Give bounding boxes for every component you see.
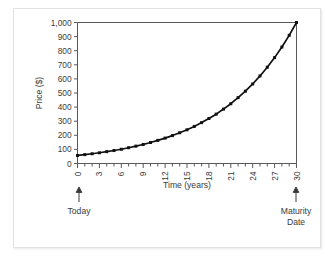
data-marker — [193, 125, 196, 128]
data-marker — [142, 143, 145, 146]
y-tick-label: 1,000 — [51, 18, 72, 28]
x-tick-label: 9 — [138, 171, 148, 176]
data-marker — [105, 150, 108, 153]
y-tick-label: 200 — [58, 130, 72, 140]
up-arrow-icon — [76, 187, 82, 202]
data-marker — [280, 46, 283, 49]
y-tick-label: 0 — [67, 159, 72, 169]
y-axis-tick-labels: 01002003004005006007008009001,000 — [51, 18, 72, 169]
x-axis-title: Time (years) — [163, 180, 211, 190]
x-tick-label: 27 — [270, 171, 280, 181]
y-tick-label: 700 — [58, 60, 72, 70]
data-marker — [83, 153, 86, 156]
data-marker — [207, 117, 210, 120]
annotation-today-label: Today — [68, 206, 92, 216]
data-marker — [237, 96, 240, 99]
y-tick-label: 600 — [58, 74, 72, 84]
data-marker — [251, 82, 254, 85]
data-marker — [171, 134, 174, 137]
annotation-maturity-date: Maturity Date — [281, 187, 312, 227]
up-arrow-icon — [293, 187, 299, 202]
data-marker — [76, 154, 79, 157]
x-axis-ticks — [78, 164, 297, 169]
x-tick-label: 6 — [116, 171, 126, 176]
data-marker — [273, 56, 276, 59]
data-marker — [186, 128, 189, 131]
x-tick-label: 0 — [73, 171, 83, 176]
annotation-today: Today — [68, 187, 92, 216]
x-tick-label: 30 — [292, 171, 302, 181]
data-marker — [215, 113, 218, 116]
price-curve — [78, 23, 297, 156]
data-marker — [120, 148, 123, 151]
annotation-maturity-label-line2: Date — [287, 217, 305, 227]
data-marker — [178, 131, 181, 134]
data-marker — [134, 145, 137, 148]
y-axis-title: Price ($) — [34, 77, 44, 110]
data-marker — [295, 21, 298, 24]
x-tick-label: 3 — [94, 171, 104, 176]
y-tick-label: 500 — [58, 88, 72, 98]
data-marker — [200, 121, 203, 124]
data-marker — [91, 152, 94, 155]
y-tick-label: 800 — [58, 46, 72, 56]
y-tick-label: 400 — [58, 102, 72, 112]
data-marker — [149, 141, 152, 144]
data-marker — [113, 149, 116, 152]
y-axis-ticks — [74, 23, 78, 164]
data-marker — [259, 74, 262, 77]
y-tick-label: 900 — [58, 32, 72, 42]
x-tick-label: 21 — [226, 171, 236, 181]
y-tick-label: 300 — [58, 116, 72, 126]
data-marker — [288, 34, 291, 37]
y-tick-label: 100 — [58, 144, 72, 154]
price-vs-time-chart: 01002003004005006007008009001,000 036912… — [0, 0, 334, 258]
data-marker — [156, 139, 159, 142]
data-marker — [164, 137, 167, 140]
data-marker — [244, 90, 247, 93]
annotation-maturity-label-line1: Maturity — [281, 206, 312, 216]
data-marker — [222, 108, 225, 111]
data-marker — [266, 66, 269, 69]
x-tick-label: 24 — [248, 171, 258, 181]
data-marker — [127, 146, 130, 149]
data-marker — [229, 102, 232, 105]
plot-frame — [78, 23, 297, 164]
data-marker — [98, 151, 101, 154]
figure-root: 01002003004005006007008009001,000 036912… — [0, 0, 334, 258]
price-data-markers — [76, 21, 298, 157]
